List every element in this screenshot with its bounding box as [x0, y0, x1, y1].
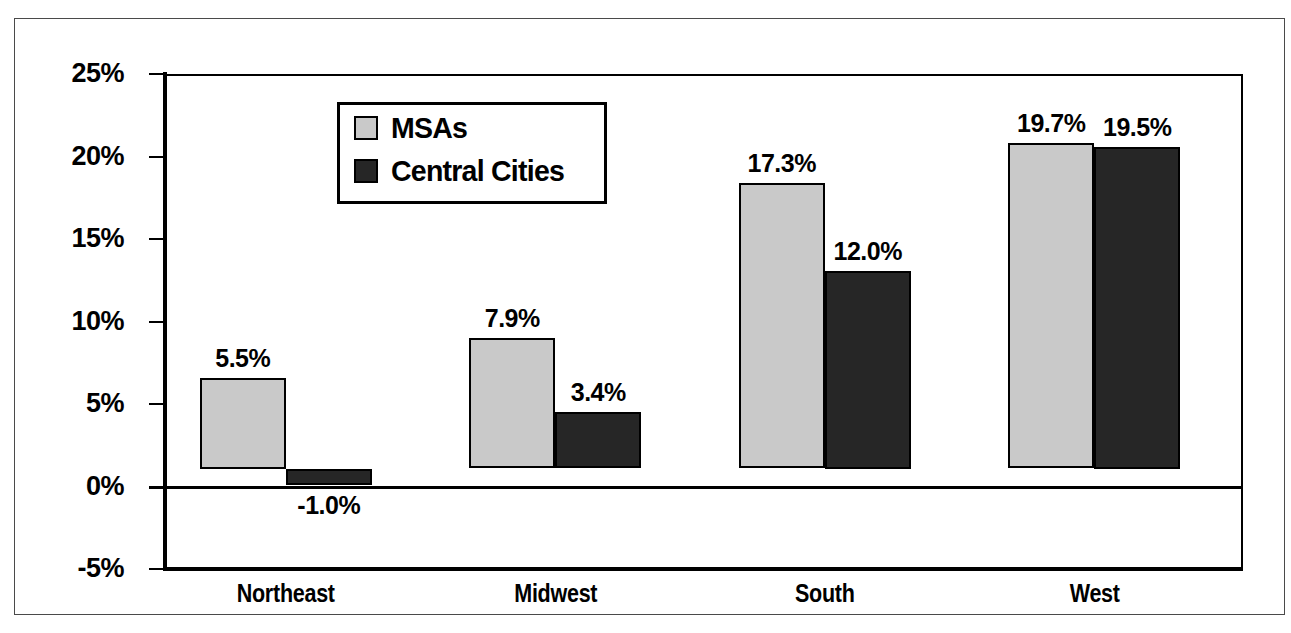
legend: MSAs Central Cities	[337, 102, 607, 204]
legend-item-msas: MSAs	[354, 113, 471, 143]
tick-mark-25	[149, 73, 165, 75]
y-axis-label-10: 10%	[4, 308, 124, 335]
figure-frame: 25% 20% 15% 10% 5% 0% -5% 5.5%-1.0%7.9%3…	[14, 18, 1285, 615]
legend-swatch-msas-icon	[354, 116, 378, 140]
chart-root: 25% 20% 15% 10% 5% 0% -5% 5.5%-1.0%7.9%3…	[0, 0, 1291, 633]
y-axis-label-25: 25%	[4, 60, 124, 87]
legend-swatch-central-cities-icon	[354, 159, 378, 183]
x-axis-label-west: West	[978, 579, 1210, 608]
x-axis-label-midwest: Midwest	[439, 579, 671, 608]
value-label-northeast-msas: 5.5%	[180, 346, 306, 371]
gridline-zero	[165, 486, 1243, 489]
bar-northeast-central-cities	[286, 469, 372, 486]
tick-mark-minus5	[149, 568, 165, 570]
x-axis-label-south: South	[709, 579, 941, 608]
bar-northeast-msas	[200, 378, 286, 469]
legend-label-central-cities: Central Cities	[391, 156, 564, 186]
value-label-south-central-cities: 12.0%	[805, 239, 931, 264]
value-label-south-msas: 17.3%	[719, 151, 845, 176]
legend-label-msas: MSAs	[391, 113, 467, 143]
bar-west-central-cities	[1094, 147, 1180, 469]
x-axis-label-northeast: Northeast	[170, 579, 402, 608]
value-label-midwest-msas: 7.9%	[449, 306, 575, 331]
y-axis-label-0: 0%	[4, 473, 124, 500]
tick-mark-0	[149, 486, 165, 489]
y-axis-label-15: 15%	[4, 225, 124, 252]
value-label-northeast-central-cities: -1.0%	[266, 493, 392, 518]
bar-south-msas	[739, 183, 825, 468]
bar-midwest-central-cities	[555, 412, 641, 468]
value-label-midwest-central-cities: 3.4%	[535, 380, 661, 405]
legend-item-central-cities: Central Cities	[354, 156, 573, 186]
gridline-minus5	[165, 569, 1243, 571]
tick-mark-20	[149, 156, 165, 158]
tick-mark-15	[149, 238, 165, 240]
bar-south-central-cities	[825, 271, 911, 469]
y-axis-label-20: 20%	[4, 143, 124, 170]
tick-mark-5	[149, 403, 165, 405]
tick-mark-10	[149, 321, 165, 323]
bar-west-msas	[1008, 143, 1094, 468]
y-axis-label-minus5: -5%	[4, 555, 124, 582]
y-axis-label-5: 5%	[4, 390, 124, 417]
value-label-west-central-cities: 19.5%	[1074, 115, 1200, 140]
